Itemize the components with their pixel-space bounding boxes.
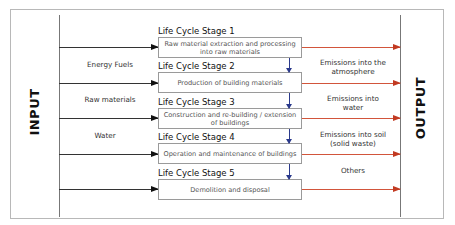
stage-3-box: Construction and re-building / extension… — [158, 108, 302, 129]
stage-3-label: Life Cycle Stage 3 — [158, 97, 235, 107]
stage-3-description: Construction and re-building / extension… — [163, 111, 297, 127]
input-arrow-stage-5 — [59, 189, 158, 190]
output-water-text: Emissions into water — [327, 94, 379, 112]
output-water: Emissions into water — [318, 94, 388, 112]
output-arrow-stage-5 — [302, 189, 400, 190]
output-arrow-stage-1 — [302, 47, 400, 48]
stage-2-label: Life Cycle Stage 2 — [158, 61, 235, 71]
stage-2-box: Production of building materials — [158, 72, 302, 93]
input-energy-fuels: Energy Fuels — [80, 60, 140, 69]
input-arrow-stage-1 — [59, 47, 158, 48]
input-arrow-stage-2 — [59, 83, 158, 84]
output-atmosphere-text: Emissions into the atmosphere — [320, 58, 386, 76]
output-atmosphere: Emissions into the atmosphere — [318, 58, 388, 76]
output-others-text: Others — [341, 166, 365, 175]
stage-4-label: Life Cycle Stage 4 — [158, 132, 235, 142]
output-soil-text: Emissions into soil (solid waste) — [320, 130, 386, 148]
stage-1-box: Raw material extraction and processing i… — [158, 37, 302, 58]
flow-arrow-2-to-3 — [289, 93, 290, 108]
stage-1-label: Life Cycle Stage 1 — [158, 26, 235, 36]
output-others: Others — [318, 166, 388, 175]
stage-4-box: Operation and maintenance of buildings — [158, 143, 302, 164]
input-raw-materials: Raw materials — [80, 95, 140, 104]
input-energy-fuels-text: Energy Fuels — [87, 60, 133, 69]
output-arrow-stage-4 — [302, 154, 400, 155]
input-arrow-stage-3 — [59, 118, 158, 119]
stage-2-description: Production of building materials — [177, 79, 282, 87]
input-arrow-stage-4 — [59, 154, 158, 155]
stage-1-description: Raw material extraction and processing i… — [163, 40, 297, 56]
input-water: Water — [80, 131, 130, 140]
stage-5-description: Demolition and disposal — [190, 186, 269, 194]
flow-arrow-1-to-2 — [289, 58, 290, 72]
output-soil: Emissions into soil (solid waste) — [316, 130, 390, 148]
input-divider-line — [59, 15, 60, 217]
input-water-text: Water — [94, 131, 115, 140]
input-label: INPUT — [27, 72, 43, 152]
flow-arrow-3-to-4 — [289, 129, 290, 143]
input-raw-materials-text: Raw materials — [84, 95, 135, 104]
stage-4-description: Operation and maintenance of buildings — [163, 150, 296, 158]
stage-5-label: Life Cycle Stage 5 — [158, 168, 235, 178]
stage-5-box: Demolition and disposal — [158, 179, 302, 200]
output-label: OUTPUT — [413, 68, 429, 148]
output-arrow-stage-2 — [302, 83, 400, 84]
output-arrow-stage-3 — [302, 118, 400, 119]
flow-arrow-4-to-5 — [289, 164, 290, 179]
